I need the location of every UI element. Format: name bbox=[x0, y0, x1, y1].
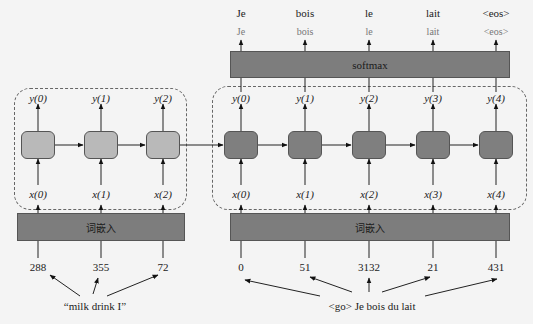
softmax-output-1: bois bbox=[297, 26, 314, 38]
encoder-rnn-cell-1 bbox=[84, 131, 118, 159]
decoder-output-label-2: y(2) bbox=[360, 92, 378, 104]
decoder-input-label-1: x(1) bbox=[296, 188, 314, 200]
decoder-token-id-3: 21 bbox=[428, 261, 439, 273]
softmax-output-0: Je bbox=[237, 26, 245, 38]
decoder-rnn-cell-2 bbox=[352, 131, 386, 159]
decoder-token-id-0: 0 bbox=[238, 261, 244, 273]
decoder-output-label-4: y(4) bbox=[487, 92, 505, 104]
decoder-rnn-cell-3 bbox=[416, 131, 450, 159]
encoder-token-id-0: 288 bbox=[30, 261, 47, 273]
encoder-embedding-layer: 词嵌入 bbox=[17, 213, 185, 241]
final-word-4: <eos> bbox=[482, 7, 509, 19]
decoder-input-label-2: x(2) bbox=[360, 188, 378, 200]
decoder-output-label-3: y(3) bbox=[424, 92, 442, 104]
encoder-input-label-1: x(1) bbox=[92, 188, 110, 200]
decoder-token-id-1: 51 bbox=[300, 261, 311, 273]
encoder-input-label-2: x(2) bbox=[154, 188, 172, 200]
softmax-layer: softmax bbox=[230, 51, 510, 78]
final-word-0: Je bbox=[236, 7, 245, 19]
target-sentence: <go> Je bois du lait bbox=[329, 300, 416, 312]
encoder-rnn-cell-2 bbox=[146, 131, 180, 159]
encoder-token-id-1: 355 bbox=[93, 261, 110, 273]
encoder-embedding-label: 词嵌入 bbox=[86, 220, 116, 235]
softmax-output-2: le bbox=[365, 26, 372, 38]
decoder-output-label-0: y(0) bbox=[232, 92, 250, 104]
encoder-output-label-0: y(0) bbox=[29, 92, 47, 104]
encoder-input-label-0: x(0) bbox=[29, 188, 47, 200]
decoder-input-label-3: x(3) bbox=[424, 188, 442, 200]
final-word-1: bois bbox=[296, 7, 314, 19]
decoder-input-label-4: x(4) bbox=[487, 188, 505, 200]
encoder-token-id-2: 72 bbox=[158, 261, 169, 273]
decoder-rnn-cell-4 bbox=[479, 131, 513, 159]
source-sentence: “milk drink I” bbox=[64, 300, 126, 312]
decoder-token-id-4: 431 bbox=[488, 261, 505, 273]
decoder-token-id-2: 3132 bbox=[358, 261, 380, 273]
decoder-rnn-cell-1 bbox=[288, 131, 322, 159]
decoder-rnn-cell-0 bbox=[224, 131, 258, 159]
decoder-output-label-1: y(1) bbox=[296, 92, 314, 104]
encoder-rnn-cell-0 bbox=[21, 131, 55, 159]
connection-lines bbox=[0, 0, 533, 324]
decoder-embedding-label: 词嵌入 bbox=[355, 220, 385, 235]
final-word-2: le bbox=[365, 7, 373, 19]
decoder-input-label-0: x(0) bbox=[232, 188, 250, 200]
softmax-output-4: <eos> bbox=[484, 26, 509, 38]
softmax-output-3: lait bbox=[427, 26, 440, 38]
encoder-output-label-2: y(2) bbox=[154, 92, 172, 104]
softmax-label: softmax bbox=[352, 59, 387, 71]
decoder-embedding-layer: 词嵌入 bbox=[230, 213, 510, 241]
encoder-output-label-1: y(1) bbox=[92, 92, 110, 104]
final-word-3: lait bbox=[426, 7, 440, 19]
